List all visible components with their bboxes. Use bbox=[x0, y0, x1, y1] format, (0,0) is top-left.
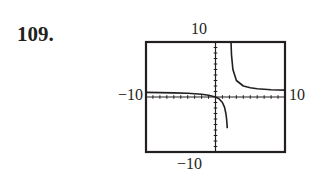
xmax-label: 10 bbox=[289, 86, 305, 104]
xmin-label: −10 bbox=[118, 86, 143, 104]
ymin-label: −10 bbox=[177, 155, 202, 173]
ymax-label: 10 bbox=[191, 20, 207, 38]
graph-plot bbox=[0, 0, 330, 179]
